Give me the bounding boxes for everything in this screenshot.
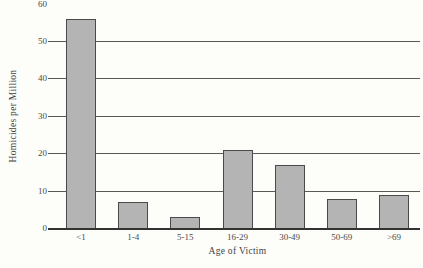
bar	[66, 19, 96, 229]
gridline	[48, 116, 420, 117]
plot-area	[55, 4, 420, 229]
bar	[170, 217, 200, 228]
x-axis-title: Age of Victim	[55, 246, 420, 256]
gridline	[48, 41, 420, 42]
x-axis-line	[48, 228, 420, 230]
y-tick-label: 30	[17, 111, 47, 122]
x-tick-label: 16-29	[211, 232, 263, 243]
bar	[327, 199, 357, 229]
y-tick-label: 40	[17, 73, 47, 84]
bar	[223, 150, 253, 229]
bar	[275, 165, 305, 229]
bar-chart-figure: Homicides per Million Age of Victim 0102…	[0, 0, 423, 268]
x-tick-label: 30-49	[264, 232, 316, 243]
gridline	[48, 78, 420, 79]
x-tick-label: <1	[55, 232, 107, 243]
x-tick-label: >69	[368, 232, 420, 243]
x-tick-label: 1-4	[107, 232, 159, 243]
bar	[118, 202, 148, 228]
x-tick-label: 50-69	[316, 232, 368, 243]
bar	[379, 195, 409, 229]
y-tick-label: 60	[17, 0, 47, 10]
y-tick-label: 10	[17, 186, 47, 197]
y-tick-label: 0	[17, 223, 47, 234]
x-tick-label: 5-15	[159, 232, 211, 243]
y-tick-label: 50	[17, 36, 47, 47]
y-tick-label: 20	[17, 148, 47, 159]
